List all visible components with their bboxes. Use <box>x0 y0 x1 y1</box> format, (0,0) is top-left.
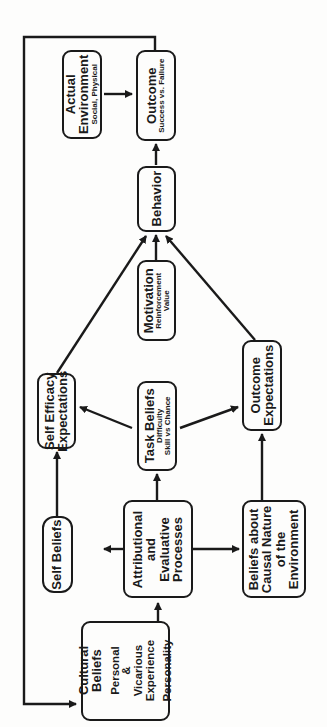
personal-line-3: Vicarious <box>133 645 145 697</box>
causal-line-4: Environment <box>287 509 300 588</box>
behavior-title: Behavior <box>150 171 163 227</box>
task-beliefs-sub2: Skill vs Chance <box>164 397 172 456</box>
personal-line-4: Experience <box>145 640 157 701</box>
outcome-title: Outcome <box>145 67 158 123</box>
self-beliefs-title: Self Beliefs <box>51 519 64 589</box>
outcome-expectations-node: Outcome Expectations <box>242 340 282 431</box>
behavior-node: Behavior <box>137 166 176 232</box>
motivation-node: Motivation Reinforcement Value <box>137 260 176 341</box>
actual-environment-node: Actual Environment Social, Physical <box>62 50 102 139</box>
motivation-sub2: Value <box>163 290 171 311</box>
self-efficacy-line-2: Expectations <box>57 371 70 452</box>
outcome-exp-line-1: Outcome <box>249 357 262 413</box>
attributional-line-4: Processes <box>171 516 184 581</box>
task-beliefs-title: Task Beliefs <box>142 389 155 464</box>
attributional-node: Attributional and Evaluative Processes <box>123 500 193 598</box>
causal-line-2: Causal Nature <box>261 505 274 592</box>
cultural-beliefs-node: Cultural Beliefs Personal & Vicarious Ex… <box>81 621 170 721</box>
cultural-line-1: Cultural <box>77 646 90 695</box>
task-beliefs-node: Task Beliefs Difficulty Skill vs Chance <box>137 381 177 471</box>
personal-line-1: Personal <box>109 647 121 696</box>
attributional-line-2: and <box>145 537 158 560</box>
personal-line-2: & <box>121 667 133 675</box>
causal-nature-node: Beliefs about Causal Nature of the Envir… <box>242 500 306 598</box>
cultural-line-2: Beliefs <box>90 650 103 693</box>
outcome-exp-line-2: Expectations <box>262 345 275 426</box>
actual-env-sub1: Social, Physical <box>91 64 99 124</box>
personality-line: Personality <box>162 640 174 702</box>
self-efficacy-node: Self Efficacy Expectations <box>37 373 76 449</box>
motivation-title: Motivation <box>142 268 155 333</box>
self-beliefs-node: Self Beliefs <box>42 516 73 593</box>
actual-env-line-2: Environment <box>78 55 91 134</box>
outcome-sub1: Success vs. Failure <box>159 58 167 132</box>
outcome-node: Outcome Success vs. Failure <box>136 50 176 141</box>
